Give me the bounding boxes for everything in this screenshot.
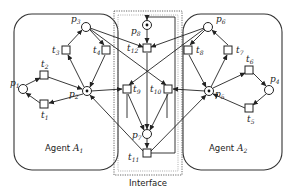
- svg-text:p2: p2: [69, 89, 79, 100]
- svg-text:p4: p4: [270, 74, 280, 85]
- svg-text:t2: t2: [41, 59, 49, 70]
- transition-t5: [245, 104, 253, 112]
- transition-t6: [245, 66, 253, 74]
- tokens: [86, 24, 211, 93]
- node-labels: p1 p2 p3 p4 p5 p6 p7 p8 t1 t2 t3 t4 t5 t…: [10, 14, 280, 163]
- transition-t4: [102, 46, 110, 54]
- svg-text:t7: t7: [236, 45, 244, 56]
- places: [19, 21, 274, 139]
- svg-text:p1: p1: [10, 78, 20, 89]
- token-p5: [208, 90, 211, 93]
- place-p3: [82, 23, 91, 32]
- place-p7: [143, 130, 152, 139]
- svg-text:t4: t4: [93, 45, 101, 56]
- svg-text:p6: p6: [216, 14, 226, 25]
- transition-t7: [224, 46, 232, 54]
- svg-text:t5: t5: [247, 114, 255, 125]
- transition-t8: [184, 46, 192, 54]
- svg-text:t9: t9: [133, 84, 141, 95]
- transitions: [40, 44, 253, 157]
- transition-t1: [40, 100, 48, 108]
- petri-net-diagram: p1 p2 p3 p4 p5 p6 p7 p8 t1 t2 t3 t4 t5 t…: [0, 0, 293, 196]
- svg-text:t3: t3: [52, 45, 60, 56]
- svg-text:t10: t10: [150, 84, 161, 95]
- place-p4: [265, 86, 274, 95]
- svg-text:t6: t6: [246, 54, 254, 65]
- interface-label: Interface: [129, 178, 167, 188]
- agent-a1-label: Agent A1: [45, 143, 83, 154]
- svg-text:p7: p7: [132, 130, 142, 141]
- transition-t9: [123, 85, 131, 93]
- transition-t2: [40, 71, 48, 79]
- transition-t12: [143, 44, 151, 52]
- svg-text:t8: t8: [196, 45, 204, 56]
- svg-text:p8: p8: [131, 26, 141, 37]
- svg-text:p3: p3: [71, 14, 81, 25]
- token-p2: [86, 90, 89, 93]
- svg-text:t11: t11: [128, 152, 139, 163]
- svg-text:p5: p5: [215, 89, 225, 100]
- transition-t3: [62, 46, 70, 54]
- transition-t11: [143, 149, 151, 157]
- place-p1: [19, 85, 28, 94]
- place-p6: [204, 23, 213, 32]
- token-p8: [146, 24, 149, 27]
- svg-text:t1: t1: [41, 110, 48, 121]
- diagram-canvas: p1 p2 p3 p4 p5 p6 p7 p8 t1 t2 t3 t4 t5 t…: [0, 0, 293, 196]
- agent-a2-label: Agent A2: [209, 143, 247, 154]
- transition-t10: [164, 85, 172, 93]
